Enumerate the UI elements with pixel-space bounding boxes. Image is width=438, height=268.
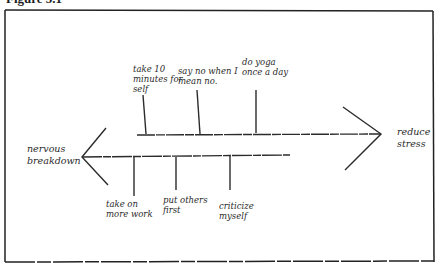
lower-branch-3-label: criticize myself xyxy=(219,201,254,221)
right-arrowhead xyxy=(343,107,381,170)
lower-branch-1-label: take on more work xyxy=(106,199,153,219)
upper-branch-1-label: take 10 minutes for self xyxy=(133,64,183,94)
frame xyxy=(5,10,434,262)
right-outcome-label: reduce stress xyxy=(397,126,430,150)
upper-branch-2-label: say no when I mean no. xyxy=(178,66,238,86)
fishbone-diagram xyxy=(0,0,438,268)
lower-spine xyxy=(82,128,290,196)
lower-branch-2-label: put others first xyxy=(163,195,208,215)
upper-branch-1-line xyxy=(143,95,146,134)
upper-branch-2-line xyxy=(197,90,200,134)
upper-spine xyxy=(137,90,381,170)
left-outcome-label: nervous breakdown xyxy=(27,143,81,167)
upper-branch-3-label: do yoga once a day xyxy=(242,57,288,77)
